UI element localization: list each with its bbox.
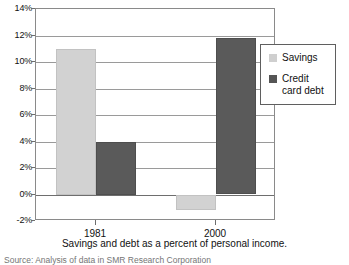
x-tick-mark xyxy=(95,220,96,225)
legend-item-credit-card-debt: Credit card debt xyxy=(269,73,329,97)
grouped-bar-chart: 14%12%10%8%6%4%2%0%-2% 19812000 Savings … xyxy=(0,0,349,265)
gridline-0pct xyxy=(36,195,274,196)
y-tick-label: 14% xyxy=(2,4,32,13)
bar-1981-credit-card-debt xyxy=(96,142,136,195)
savings-swatch-icon xyxy=(269,54,277,62)
chart-caption: Savings and debt as a percent of persona… xyxy=(0,238,349,250)
y-tick-label: 8% xyxy=(2,84,32,93)
legend-item-savings: Savings xyxy=(269,52,329,64)
bar-2000-savings xyxy=(176,195,216,211)
bar-1981-savings xyxy=(56,49,96,195)
bar-2000-credit-card-debt xyxy=(216,38,256,194)
y-tick-label: -2% xyxy=(2,216,32,225)
y-tick-label: 4% xyxy=(2,137,32,146)
y-tick-label: 12% xyxy=(2,31,32,40)
y-tick-label: 6% xyxy=(2,110,32,119)
y-tick-label: 10% xyxy=(2,57,32,66)
legend-label-savings: Savings xyxy=(282,52,318,64)
y-tick-mark xyxy=(31,220,35,221)
legend-label-credit-card-debt: Credit card debt xyxy=(282,73,329,97)
chart-source-note: Source: Analysis of data in SMR Research… xyxy=(4,256,304,265)
gridline-12pct xyxy=(36,36,274,37)
y-tick-label: 2% xyxy=(2,163,32,172)
plot-area xyxy=(35,8,275,220)
y-tick-label: 0% xyxy=(2,190,32,199)
credit-card-debt-swatch-icon xyxy=(269,75,277,83)
x-tick-mark xyxy=(215,220,216,225)
chart-legend: Savings Credit card debt xyxy=(260,44,336,105)
